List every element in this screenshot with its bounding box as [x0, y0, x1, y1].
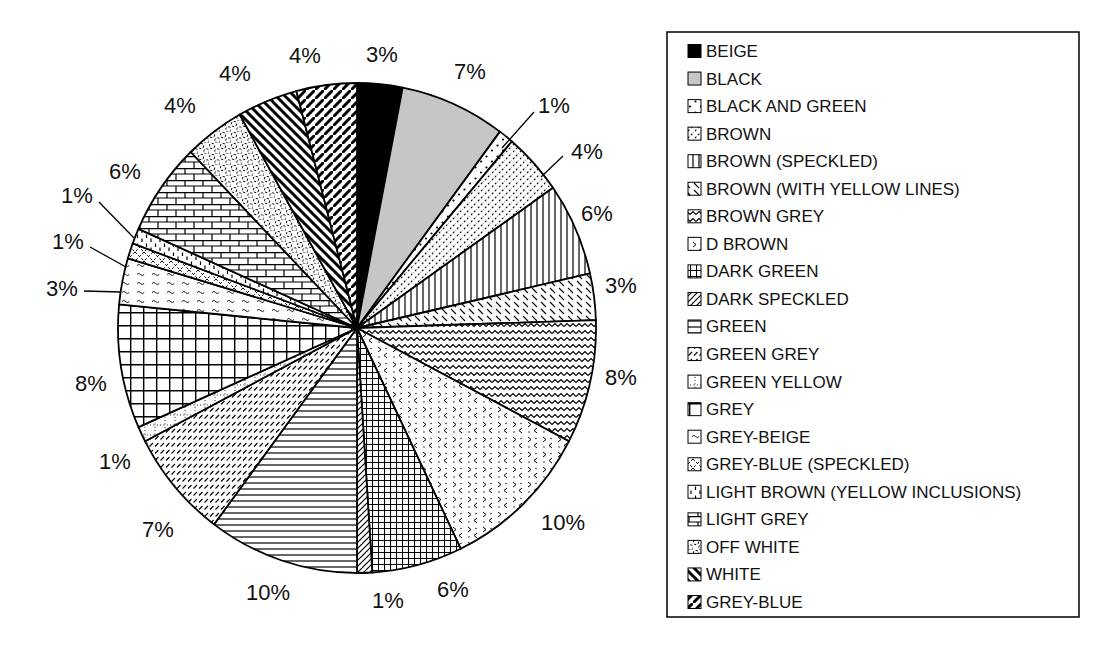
legend-label-green-grey: GREEN GREY: [706, 345, 819, 364]
percent-label-green-grey: 7%: [142, 517, 174, 542]
percent-label-black-and-green: 1%: [538, 93, 570, 118]
figure-canvas: 3%7%1%4%6%3%8%10%6%1%10%7%1%8%3%1%1%6%4%…: [0, 0, 1111, 653]
legend-swatch-green-grey: [688, 348, 701, 361]
legend-item-brown-speckled: BROWN (SPECKLED): [688, 152, 878, 171]
legend-item-grey-blue-speckled: GREY-BLUE (SPECKLED): [688, 455, 909, 474]
legend-layer: BEIGEBLACKBLACK AND GREENBROWNBROWN (SPE…: [667, 32, 1079, 617]
legend-swatch-light-grey: [688, 513, 701, 526]
legend-swatch-brown-speckled: [688, 155, 701, 168]
legend-label-light-grey: LIGHT GREY: [706, 510, 809, 529]
legend-label-brown: BROWN: [706, 125, 771, 144]
legend-label-green-yellow: GREEN YELLOW: [706, 373, 842, 392]
legend-swatch-grey: [688, 403, 701, 416]
legend-swatch-dark-speckled: [688, 292, 701, 305]
legend-item-brown-grey: BROWN GREY: [688, 207, 824, 226]
leader-line-light-brown-yellow-inclusions: [99, 202, 134, 238]
legend-label-light-brown-yellow-inclusions: LIGHT BROWN (YELLOW INCLUSIONS): [706, 483, 1021, 502]
legend-item-green-grey: GREEN GREY: [688, 345, 819, 364]
percent-label-light-grey: 6%: [109, 159, 141, 184]
legend-label-off-white: OFF WHITE: [706, 538, 799, 557]
legend-item-green-yellow: GREEN YELLOW: [688, 373, 842, 392]
legend-swatch-off-white: [688, 540, 701, 553]
legend-swatch-grey-blue-speckled: [688, 458, 701, 471]
legend-item-black-and-green: BLACK AND GREEN: [688, 97, 867, 116]
legend-label-dark-speckled: DARK SPECKLED: [706, 290, 849, 309]
legend-item-dark-speckled: DARK SPECKLED: [688, 290, 849, 309]
legend-label-beige: BEIGE: [706, 42, 758, 61]
legend-label-brown-with-yellow-lines: BROWN (WITH YELLOW LINES): [706, 180, 960, 199]
percent-label-dark-speckled: 1%: [372, 588, 404, 613]
legend-swatch-brown-with-yellow-lines: [688, 182, 701, 195]
percent-label-green: 10%: [246, 580, 290, 605]
legend-swatch-white: [688, 568, 701, 581]
percent-label-brown-speckled: 6%: [581, 201, 613, 226]
legend-swatch-grey-beige: [688, 430, 701, 443]
percent-label-grey-blue-speckled: 1%: [52, 229, 84, 254]
legend-swatch-black-and-green: [688, 100, 701, 113]
legend-swatch-d-brown: [688, 237, 701, 250]
legend-label-brown-grey: BROWN GREY: [706, 207, 824, 226]
percent-label-off-white: 4%: [164, 93, 196, 118]
percent-label-green-yellow: 1%: [99, 449, 131, 474]
legend-item-brown-with-yellow-lines: BROWN (WITH YELLOW LINES): [688, 180, 960, 199]
legend-swatch-green: [688, 320, 701, 333]
percent-label-grey: 8%: [75, 371, 107, 396]
leader-line-grey-blue-speckled: [90, 247, 126, 267]
legend-swatch-brown-grey: [688, 210, 701, 223]
leader-line-grey-beige: [84, 291, 121, 292]
legend-swatch-grey-blue: [688, 596, 701, 609]
percent-label-dark-green: 6%: [437, 577, 469, 602]
percent-label-grey-beige: 3%: [46, 276, 78, 301]
legend-swatch-brown: [688, 127, 701, 140]
legend-swatch-light-brown-yellow-inclusions: [688, 485, 701, 498]
legend-label-grey-beige: GREY-BEIGE: [706, 428, 810, 447]
percent-label-grey-blue: 4%: [289, 43, 321, 68]
legend-label-grey: GREY: [706, 400, 754, 419]
legend-label-white: WHITE: [706, 565, 761, 584]
percent-label-light-brown-yellow-inclusions: 1%: [61, 183, 93, 208]
legend-label-d-brown: D BROWN: [706, 235, 788, 254]
legend-swatch-dark-green: [688, 265, 701, 278]
legend-swatch-green-yellow: [688, 375, 701, 388]
legend-item-light-brown-yellow-inclusions: LIGHT BROWN (YELLOW INCLUSIONS): [688, 483, 1021, 502]
leader-line-black-and-green: [502, 112, 534, 148]
legend-label-brown-speckled: BROWN (SPECKLED): [706, 152, 878, 171]
percent-label-d-brown: 10%: [541, 510, 585, 535]
pie-slices-layer: [118, 83, 596, 573]
legend-item-grey-beige: GREY-BEIGE: [688, 428, 810, 447]
percent-label-black: 7%: [454, 59, 486, 84]
percent-label-beige: 3%: [366, 42, 398, 67]
legend-label-grey-blue: GREY-BLUE: [706, 593, 803, 612]
legend-label-green: GREEN: [706, 317, 766, 336]
percent-label-brown: 4%: [571, 139, 603, 164]
legend-item-grey-blue: GREY-BLUE: [688, 593, 803, 612]
legend-item-dark-green: DARK GREEN: [688, 262, 818, 281]
percent-label-brown-grey: 8%: [605, 365, 637, 390]
legend-swatch-black: [688, 72, 701, 85]
legend-label-dark-green: DARK GREEN: [706, 262, 818, 281]
legend-swatch-beige: [688, 45, 701, 58]
legend-item-light-grey: LIGHT GREY: [688, 510, 809, 529]
pie-chart-figure: 3%7%1%4%6%3%8%10%6%1%10%7%1%8%3%1%1%6%4%…: [0, 0, 1111, 653]
percent-label-white: 4%: [219, 61, 251, 86]
leader-line-brown: [541, 156, 563, 177]
legend-label-black: BLACK: [706, 70, 762, 89]
legend-label-black-and-green: BLACK AND GREEN: [706, 97, 867, 116]
percent-label-brown-with-yellow-lines: 3%: [605, 273, 637, 298]
legend-label-grey-blue-speckled: GREY-BLUE (SPECKLED): [706, 455, 909, 474]
